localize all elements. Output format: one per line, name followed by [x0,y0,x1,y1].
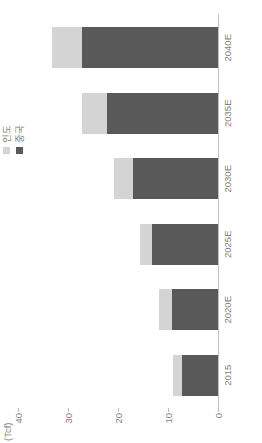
axis-tick [118,408,119,412]
bar-stack [159,289,218,330]
bar-segment [82,27,218,68]
axis-tick [218,408,219,412]
bar-stack [173,355,219,396]
category-axis-label: 2035E [222,100,233,127]
bar-segment [133,158,219,199]
axis-tick [68,408,69,412]
legend-label: 인도 [1,125,12,143]
legend-swatch-icon [3,147,10,154]
bar-stack [114,158,218,199]
category-axis-label: 2040E [222,34,233,61]
bar-segment [182,355,218,396]
bar-segment [159,289,172,330]
bar-segment [173,355,183,396]
bar-stack [52,27,218,68]
bar-segment [107,93,219,134]
legend-swatch-icon [16,147,23,154]
rotated-chart-container: (Tcf) 010203040 20152020E2025E2030E2035E… [0,0,262,443]
bar-segment [140,224,153,265]
legend-item[interactable]: 중국 [14,125,25,154]
bar-segment [152,224,218,265]
value-axis-tick-label: 0 [213,413,224,443]
bar-stack [140,224,219,265]
bar-segment [52,27,82,68]
value-axis-tick-label: 20 [113,413,124,443]
category-axis-label: 2015 [222,365,233,386]
category-axis-label: 2020E [222,296,233,323]
bar-segment [82,93,107,134]
bar-stack [82,93,219,134]
plot-area [18,15,218,408]
chart-legend: 인도중국 [1,125,27,154]
category-axis-label: 2030E [222,165,233,192]
value-axis-tick-label: 30 [63,413,74,443]
unit-label: (Tcf) [2,423,13,441]
category-axis-label: 2025E [222,231,233,258]
axis-tick [168,408,169,412]
legend-item[interactable]: 인도 [1,125,12,154]
axis-tick [18,408,19,412]
bar-segment [172,289,219,330]
bar-chart: (Tcf) 010203040 20152020E2025E2030E2035E… [0,0,262,443]
value-axis-tick-label: 40 [13,413,24,443]
value-axis-tick-label: 10 [163,413,174,443]
legend-label: 중국 [14,125,25,143]
bar-segment [114,158,133,199]
